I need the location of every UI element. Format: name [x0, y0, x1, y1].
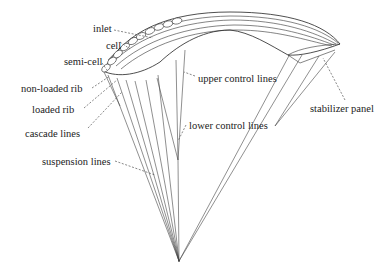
- label-upper-control-lines: upper control lines: [198, 73, 277, 84]
- label-cell: cell: [106, 40, 121, 51]
- label-stabilizer-panel: stabilizer panel: [310, 103, 374, 114]
- label-semi-cell: semi-cell: [64, 56, 103, 67]
- pilot-attachment-point: [178, 260, 180, 262]
- label-lower-control-lines: lower control lines: [189, 120, 268, 131]
- label-cascade-lines: cascade lines: [25, 128, 80, 139]
- label-non-loaded-rib: non-loaded rib: [21, 83, 83, 94]
- label-suspension-lines: suspension lines: [42, 156, 111, 167]
- paraglider-diagram: inlet cell semi-cell non-loaded rib load…: [0, 0, 383, 273]
- label-inlet: inlet: [93, 23, 112, 34]
- canopy: [100, 12, 340, 75]
- label-loaded-rib: loaded rib: [32, 104, 74, 115]
